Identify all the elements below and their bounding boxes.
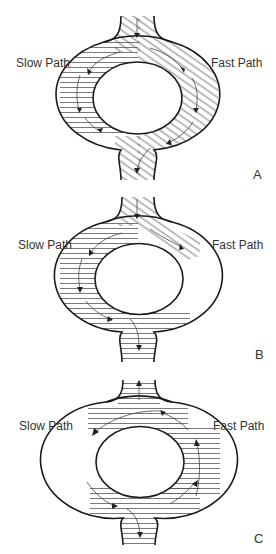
fast-path-label: Fast Path — [213, 419, 264, 433]
slow-path-label: Slow Path — [16, 56, 70, 70]
slow-path-label: Slow Path — [19, 419, 73, 433]
fast-path-label: Fast Path — [211, 56, 262, 70]
panel-letter: B — [255, 347, 264, 362]
circuit-diagram-a — [0, 0, 276, 185]
panel-b: Slow Path Fast Path B — [0, 181, 276, 366]
panel-c: Slow Path Fast Path C — [0, 366, 276, 554]
circuit-diagram-b — [0, 181, 276, 366]
slow-path-label: Slow Path — [18, 238, 72, 252]
panel-letter: C — [254, 531, 263, 546]
panel-a: Slow Path Fast Path A — [0, 0, 276, 185]
circuit-diagram-c — [0, 366, 276, 554]
fast-path-label: Fast Path — [212, 238, 263, 252]
panel-letter: A — [253, 167, 262, 182]
